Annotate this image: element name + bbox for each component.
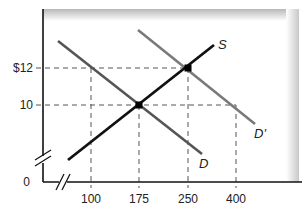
label-demand-d-prime: D' [254,126,266,141]
label-supply-s: S [218,37,227,52]
x-tick-400: 400 [226,192,246,206]
y-tick-10: 10 [20,98,34,112]
y-tick-12: $12 [13,61,33,75]
label-demand-d: D [199,156,208,171]
demand-curve-d [58,41,202,154]
equilibrium-point-new [185,65,192,72]
demand-curve-d-prime [138,30,255,124]
y-tick-0: 0 [23,175,30,189]
equilibrium-point-original [136,102,143,109]
x-tick-100: 100 [81,192,101,206]
x-tick-175: 175 [129,192,149,206]
plot-top-shade [43,9,299,21]
x-tick-250: 250 [178,192,198,206]
supply-demand-chart: $12 10 0 100 175 250 400 S D D' [0,0,307,212]
plot-right-shade [286,9,299,182]
